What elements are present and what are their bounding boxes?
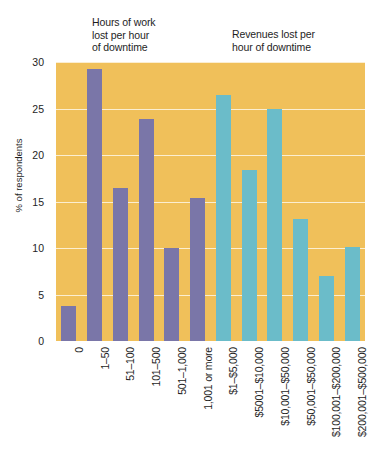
x-tick-label: 0 bbox=[73, 347, 85, 353]
x-tick-label: $10,001–$50,000 bbox=[279, 347, 291, 426]
bar-revenues bbox=[319, 276, 334, 341]
bar-hours bbox=[87, 69, 102, 341]
x-tick-label: $50,001–$50,000 bbox=[305, 347, 317, 426]
bar-hours bbox=[139, 119, 154, 341]
x-tick-label: 1–50 bbox=[99, 347, 111, 370]
bar-revenues bbox=[242, 170, 257, 341]
bar-revenues bbox=[216, 95, 231, 341]
x-tick-label: $5001–$10,000 bbox=[253, 347, 265, 417]
y-tick-label: 25 bbox=[10, 103, 44, 115]
x-tick-label: $100,001–$200,000 bbox=[330, 347, 342, 437]
y-tick-label: 10 bbox=[10, 242, 44, 254]
bar-revenues bbox=[293, 219, 308, 341]
y-tick-label: 30 bbox=[10, 56, 44, 68]
x-tick-label: 1,001 or more bbox=[202, 347, 214, 410]
bar-hours bbox=[164, 248, 179, 341]
x-tick-label: $1–$5,000 bbox=[227, 347, 239, 395]
y-tick-label: 20 bbox=[10, 149, 44, 161]
x-axis-labels: 01–5051–100101–500501–1,0001,001 or more… bbox=[56, 341, 365, 466]
caption-hours-of-work: Hours of work lost per hour of downtime bbox=[92, 16, 155, 54]
y-tick-label: 0 bbox=[10, 335, 44, 347]
bar-series-container bbox=[56, 62, 365, 341]
plot-area bbox=[56, 62, 365, 341]
bar-hours bbox=[190, 198, 205, 341]
x-tick-label: 51–100 bbox=[124, 347, 136, 381]
caption-revenues-lost: Revenues lost per hour of downtime bbox=[232, 28, 315, 53]
x-tick-label: 501–1,000 bbox=[176, 347, 188, 395]
bar-hours bbox=[113, 188, 128, 341]
x-tick-label: 101–500 bbox=[150, 347, 162, 386]
y-tick-label: 5 bbox=[10, 289, 44, 301]
y-tick-label: 15 bbox=[10, 196, 44, 208]
x-tick-label: $200,001–$500,000 bbox=[356, 347, 368, 437]
y-axis-ticks: 051015202530 bbox=[10, 0, 44, 466]
bar-hours bbox=[61, 306, 76, 341]
bar-revenues bbox=[267, 109, 282, 341]
bar-revenues bbox=[345, 247, 360, 341]
